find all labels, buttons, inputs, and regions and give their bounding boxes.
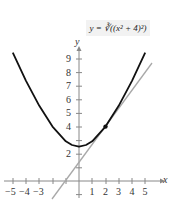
y-tick-5: 5 [66, 108, 71, 118]
y-tick-4: 4 [66, 122, 71, 132]
x-tick-neg4: −4 [19, 187, 30, 197]
tangent-point [103, 124, 107, 128]
y-tick-2: 2 [66, 149, 71, 159]
x-tick-neg3: −3 [33, 187, 44, 197]
x-tick-5: 5 [143, 187, 148, 197]
x-tick-neg5: −5 [5, 187, 16, 197]
formula-label: y = ∛((x² + 4)²) [86, 20, 150, 36]
y-tick-6: 6 [66, 95, 71, 105]
x-axis-label: x [163, 175, 167, 185]
x-tick-3: 3 [116, 187, 121, 197]
y-tick-9: 9 [66, 54, 71, 64]
y-tick-8: 8 [66, 68, 71, 78]
y-tick-7: 7 [66, 81, 71, 91]
x-tick-4: 4 [130, 187, 135, 197]
y-axis-label: y [75, 37, 79, 47]
x-tick-2: 2 [103, 187, 108, 197]
x-tick-1: 1 [90, 187, 95, 197]
